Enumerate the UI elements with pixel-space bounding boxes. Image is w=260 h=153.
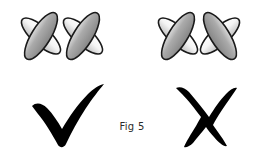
checkmark-icon <box>32 84 104 147</box>
right-group-incorrect-arrangement <box>153 8 244 64</box>
figure-caption: Fig 5 <box>104 121 160 132</box>
right-unit-2-mirrored <box>195 8 244 64</box>
dark-ellipse <box>156 8 201 64</box>
left-unit-1 <box>16 8 65 64</box>
left-group-correct-arrangement <box>16 8 107 64</box>
dark-ellipse <box>61 8 106 64</box>
dark-ellipse <box>19 8 64 64</box>
left-unit-2 <box>58 8 107 64</box>
right-unit-1 <box>153 8 202 64</box>
figure-5: Fig 5 <box>0 0 260 153</box>
cross-icon <box>176 87 237 147</box>
dark-ellipse <box>198 8 243 64</box>
